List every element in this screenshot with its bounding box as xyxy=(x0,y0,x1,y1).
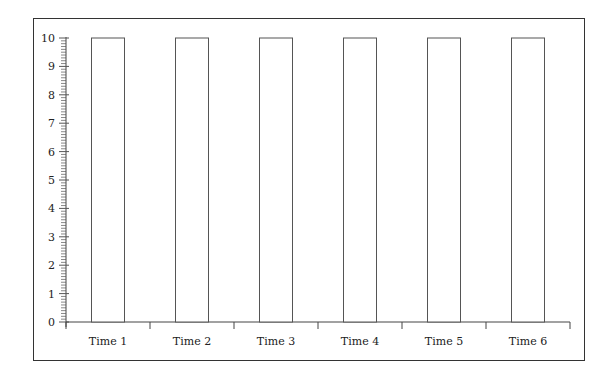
y-tick-label: 1 xyxy=(48,288,55,301)
y-tick-label: 3 xyxy=(48,231,55,244)
bar-chart: 012345678910 Time 1Time 2Time 3Time 4Tim… xyxy=(0,0,614,383)
y-tick-label: 5 xyxy=(48,174,55,187)
x-category-label: Time 2 xyxy=(173,335,211,348)
x-category-label: Time 4 xyxy=(341,335,379,348)
bar xyxy=(344,38,377,322)
bar xyxy=(428,38,461,322)
y-tick-label: 10 xyxy=(41,32,55,45)
y-tick-label: 4 xyxy=(48,202,55,215)
bar xyxy=(176,38,209,322)
bar xyxy=(92,38,125,322)
bar xyxy=(260,38,293,322)
y-tick-label: 9 xyxy=(48,60,55,73)
bar xyxy=(512,38,545,322)
y-tick-label: 2 xyxy=(48,259,55,272)
x-category-label: Time 6 xyxy=(509,335,547,348)
x-category-label: Time 5 xyxy=(425,335,463,348)
x-category-label: Time 3 xyxy=(257,335,295,348)
y-tick-label: 8 xyxy=(48,89,55,102)
y-tick-label: 6 xyxy=(48,146,55,159)
y-tick-label: 0 xyxy=(48,316,55,329)
bars xyxy=(92,38,545,322)
y-tick-label: 7 xyxy=(48,117,55,130)
y-axis: 012345678910 xyxy=(41,32,69,329)
x-axis: Time 1Time 2Time 3Time 4Time 5Time 6 xyxy=(66,322,570,348)
x-category-label: Time 1 xyxy=(89,335,127,348)
